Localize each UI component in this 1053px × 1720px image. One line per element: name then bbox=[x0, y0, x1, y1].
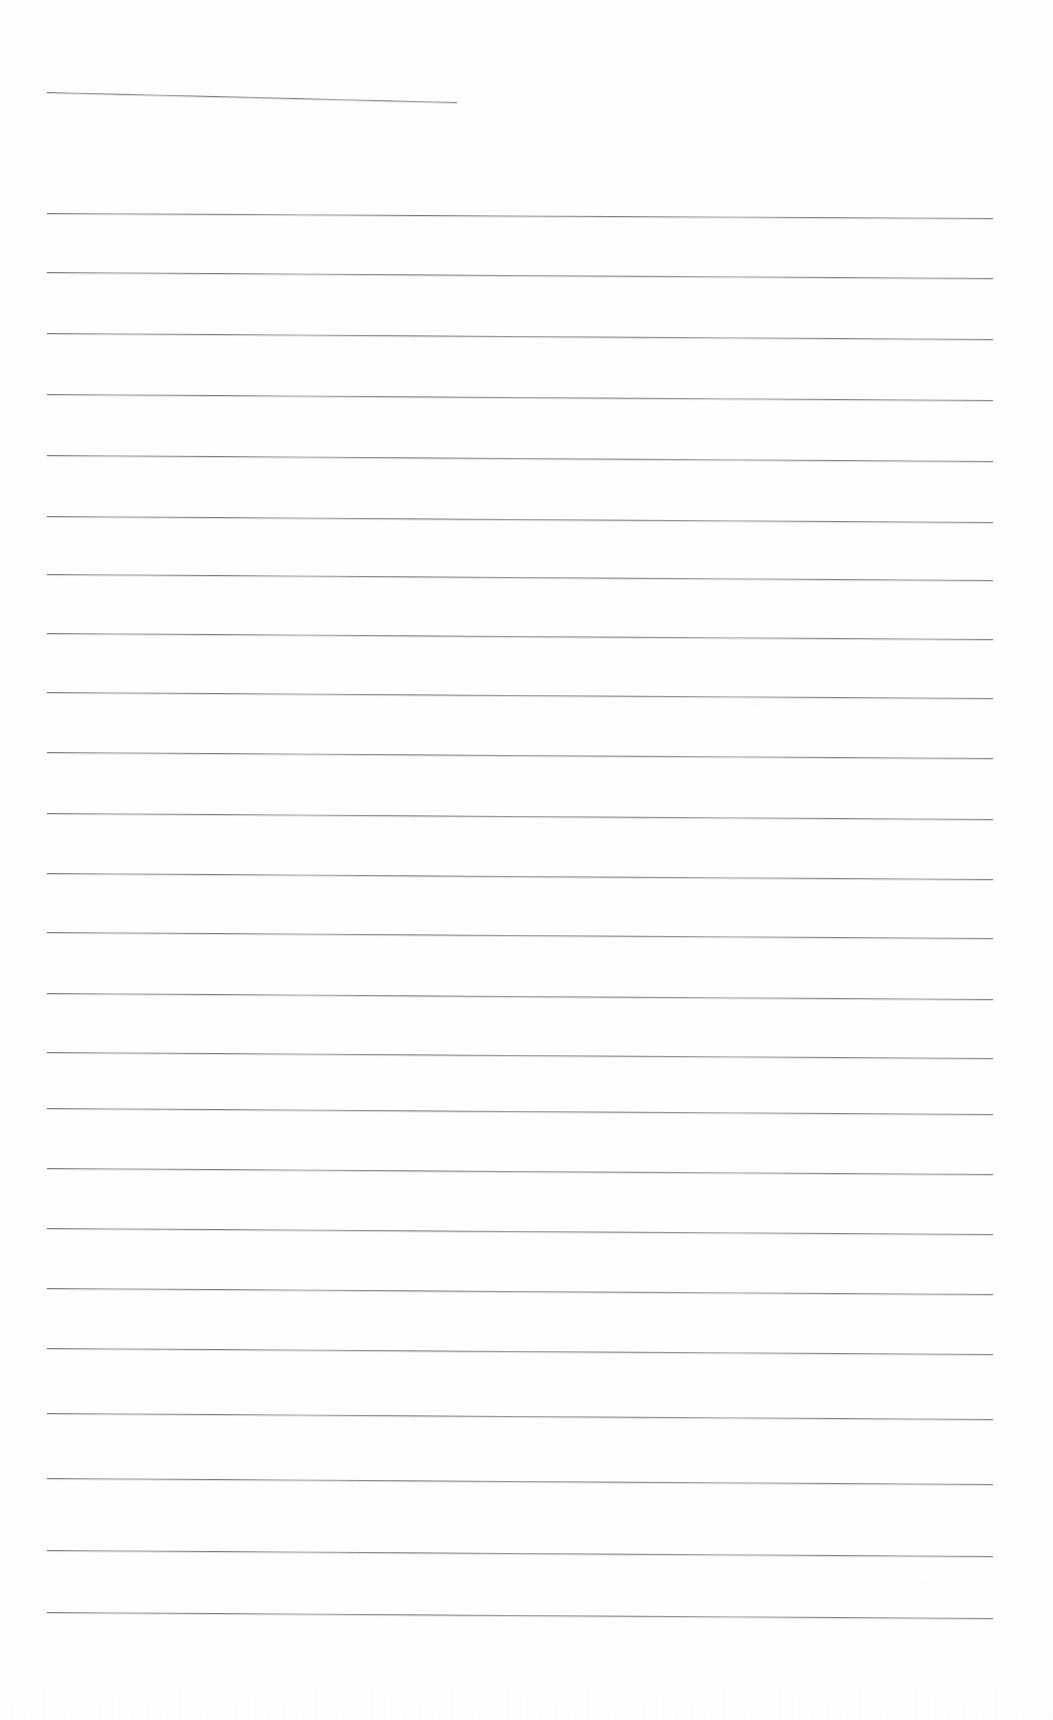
rule-line bbox=[47, 516, 993, 523]
rule-line bbox=[47, 213, 993, 219]
rule-line bbox=[47, 1550, 993, 1557]
rule-line bbox=[47, 633, 993, 640]
rule-line bbox=[47, 1168, 993, 1175]
rule-line bbox=[47, 993, 993, 1000]
rule-line bbox=[47, 1348, 993, 1355]
rule-line bbox=[47, 873, 993, 880]
rule-line bbox=[47, 455, 993, 462]
rule-line bbox=[47, 1413, 993, 1420]
scan-streak-texture bbox=[0, 0, 1053, 1720]
rule-line bbox=[47, 932, 993, 939]
bottom-scan-noise-band bbox=[0, 1642, 1053, 1720]
rule-line bbox=[47, 272, 993, 279]
rule-line bbox=[47, 92, 457, 103]
rule-line bbox=[47, 813, 993, 820]
rule-line bbox=[47, 333, 993, 340]
rule-line bbox=[47, 574, 993, 581]
paper-grain-texture bbox=[0, 0, 1053, 1720]
page-text-content bbox=[0, 0, 1, 1]
rule-line bbox=[47, 1478, 993, 1485]
rule-line bbox=[47, 692, 993, 699]
rule-line bbox=[47, 1052, 993, 1059]
rule-line bbox=[47, 394, 993, 401]
rule-line bbox=[47, 1108, 993, 1115]
scanned-page bbox=[0, 0, 1053, 1720]
rule-line bbox=[47, 752, 993, 759]
rule-line bbox=[47, 1228, 993, 1235]
rule-line bbox=[47, 1612, 993, 1619]
rule-line bbox=[47, 1288, 993, 1295]
